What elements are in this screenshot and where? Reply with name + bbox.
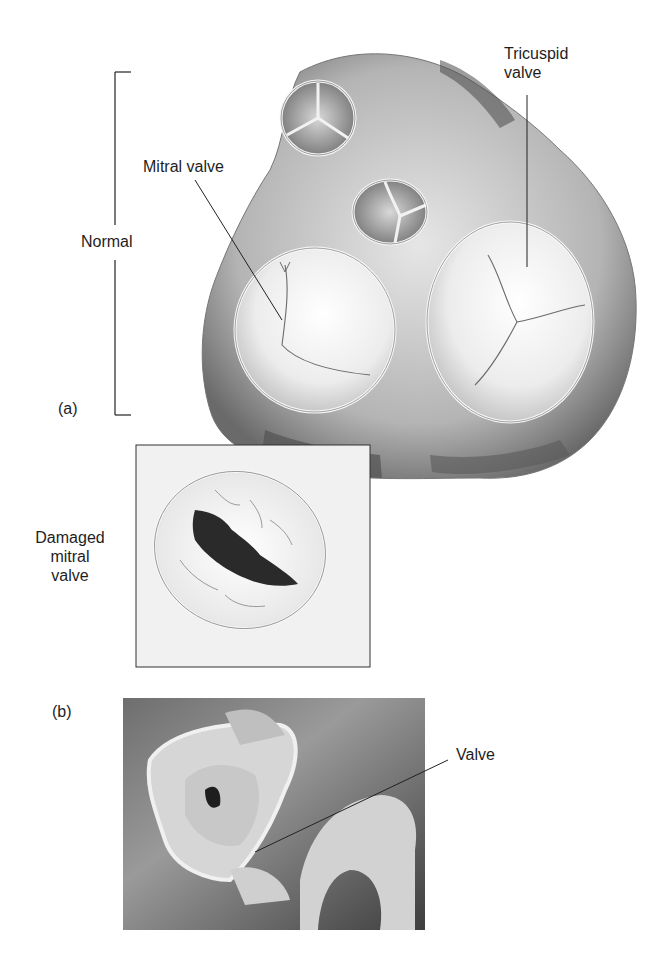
- damaged-label-line1: Damaged: [30, 528, 110, 547]
- damaged-label-line2: mitral: [30, 547, 110, 566]
- tricuspid-label-line2: valve: [504, 63, 568, 82]
- damaged-mitral-valve-label: Damaged mitral valve: [30, 528, 110, 585]
- panel-b-letter: (b): [52, 702, 72, 721]
- damaged-label-line3: valve: [30, 566, 110, 585]
- heart-valves-normal-drawing: [202, 54, 636, 479]
- normal-label: Normal: [81, 232, 133, 251]
- figure-illustration: [0, 0, 669, 974]
- mitral-valve-label: Mitral valve: [143, 157, 224, 176]
- damaged-valve-inset: [136, 445, 370, 667]
- valve-label: Valve: [456, 745, 495, 764]
- valve-photograph: [123, 698, 425, 930]
- tricuspid-label-line1: Tricuspid: [504, 44, 568, 63]
- panel-a-letter: (a): [58, 399, 78, 418]
- tricuspid-valve-label: Tricuspid valve: [504, 44, 568, 82]
